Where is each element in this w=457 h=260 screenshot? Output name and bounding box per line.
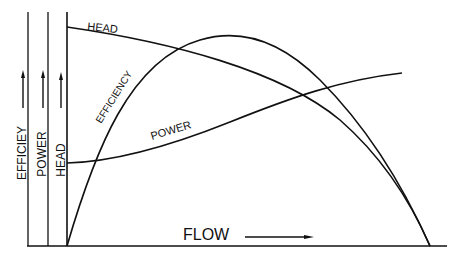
flow-arrow-icon [245, 235, 314, 239]
head-curve-label: HEAD [87, 20, 119, 35]
efficiency-axis-label: EFFICIEY [15, 126, 29, 180]
head-arrow-icon [59, 72, 63, 108]
head-curve [67, 27, 430, 246]
head-axis-label: HEAD [54, 143, 68, 177]
efficiency-curve [67, 36, 430, 246]
flow-axis-label: FLOW [183, 226, 230, 243]
power-arrow-icon [41, 70, 45, 108]
power-axis-label: POWER [35, 131, 49, 177]
pump-curve-chart: EFFICIEY POWER HEAD HEAD EFFICIENCY POWE… [0, 0, 457, 260]
efficiency-arrow-icon [21, 70, 25, 108]
